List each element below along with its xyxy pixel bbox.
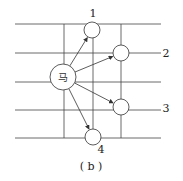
target-label-2: 2 xyxy=(163,47,170,60)
target-positions: 1234 xyxy=(84,7,170,156)
caption: ( b ) xyxy=(80,160,103,173)
horse-moves-diagram: 1234 马 ( b ) xyxy=(0,0,183,181)
move-arrows xyxy=(69,38,113,129)
target-label-3: 3 xyxy=(163,102,170,115)
move-arrow-2 xyxy=(75,56,113,72)
board-grid xyxy=(15,24,161,138)
target-label-4: 4 xyxy=(98,143,105,156)
target-label-1: 1 xyxy=(90,7,97,20)
horse-label: 马 xyxy=(58,72,68,83)
target-circle-1 xyxy=(84,22,100,38)
target-circle-2 xyxy=(113,45,129,61)
move-arrow-4 xyxy=(69,89,89,129)
target-circle-3 xyxy=(113,99,129,115)
horse-piece: 马 xyxy=(50,64,76,90)
move-arrow-1 xyxy=(70,38,87,66)
move-arrow-3 xyxy=(75,83,113,103)
